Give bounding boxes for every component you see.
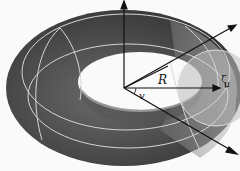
torus-diagram: R r u v <box>0 0 240 171</box>
label-v: v <box>139 90 145 101</box>
label-R: R <box>157 73 167 87</box>
